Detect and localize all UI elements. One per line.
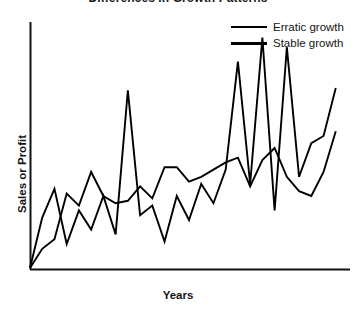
chart-figure: Differences in Growth Patterns Erratic g… [0,0,356,312]
legend-swatch-erratic-growth [231,26,267,28]
legend-label-erratic-growth: Erratic growth [273,19,344,35]
axes [30,22,350,270]
series-group [30,38,336,268]
series-line-erratic-growth [30,38,336,268]
legend-item-erratic-growth: Erratic growth [231,19,355,35]
legend-item-stable-growth: Stable growth [231,35,355,51]
legend-label-stable-growth: Stable growth [273,35,343,51]
x-axis-label: Years [0,289,356,301]
chart-legend: Erratic growth Stable growth [231,19,355,51]
legend-swatch-stable-growth [231,42,267,45]
series-line-stable-growth [30,131,336,268]
y-axis-label: Sales or Profit [16,119,28,229]
